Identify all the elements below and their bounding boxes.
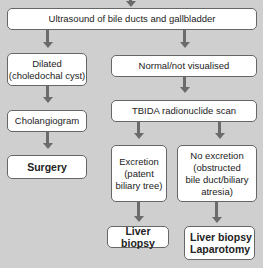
arrow-tbida-to-no-excretion <box>218 122 221 134</box>
arrow-ultrasound-to-dilated <box>46 30 49 43</box>
node-cholangiogram: Cholangiogram <box>7 110 87 132</box>
node-excretion-line2: (patent <box>124 168 154 180</box>
node-no-excretion-line4: atresia) <box>201 186 233 198</box>
node-surgery-label: Surgery <box>27 161 67 173</box>
node-surgery: Surgery <box>7 155 87 179</box>
node-liver-biopsy-laparotomy-line1: Liver biopsy <box>190 231 252 243</box>
node-normal-label: Normal/not visualised <box>139 60 230 72</box>
node-dilated-line1: Dilated <box>32 58 62 70</box>
node-dilated-line2: (choledochal cyst) <box>9 70 86 82</box>
node-liver-biopsy-label: Liver biopsy <box>108 225 168 249</box>
node-no-excretion-line2: (obstructed <box>193 162 241 174</box>
node-cholangiogram-label: Cholangiogram <box>15 115 79 127</box>
arrow-no-excretion-to-liver-biopsy-laparotomy <box>215 202 218 218</box>
arrow-tbida-to-excretion <box>137 122 140 134</box>
node-excretion-line3: biliary tree) <box>116 180 163 192</box>
arrow-excretion-to-liver-biopsy <box>137 202 140 217</box>
node-excretion: Excretion (patent biliary tree) <box>111 145 167 202</box>
node-tbida-label: TBIDA radionuclide scan <box>132 105 236 117</box>
node-no-excretion: No excretion (obstructed bile duct/bilia… <box>177 145 257 202</box>
node-no-excretion-line3: bile duct/biliary <box>186 174 249 186</box>
arrow-normal-to-tbida <box>183 77 186 88</box>
node-ultrasound: Ultrasound of bile ducts and gallbladder <box>7 8 257 30</box>
node-ultrasound-label: Ultrasound of bile ducts and gallbladder <box>49 13 216 25</box>
node-dilated: Dilated (choledochal cyst) <box>7 53 87 86</box>
node-liver-biopsy: Liver biopsy <box>107 226 169 248</box>
arrow-into-ultrasound <box>129 0 132 2</box>
arrow-ultrasound-to-normal <box>183 30 186 43</box>
node-no-excretion-line1: No excretion <box>190 150 243 162</box>
node-tbida: TBIDA radionuclide scan <box>111 100 257 122</box>
arrow-cholangiogram-to-surgery <box>46 132 49 144</box>
node-normal: Normal/not visualised <box>111 55 257 77</box>
node-excretion-line1: Excretion <box>119 156 159 168</box>
node-liver-biopsy-laparotomy: Liver biopsy Laparotomy <box>184 226 255 260</box>
node-liver-biopsy-laparotomy-line2: Laparotomy <box>190 243 250 255</box>
arrow-dilated-to-cholangiogram <box>46 86 49 98</box>
